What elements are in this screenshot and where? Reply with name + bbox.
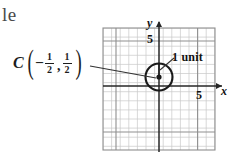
y-axis-label: y (147, 16, 152, 31)
center-point-label: C ( – 1 2 , 1 2 ) (13, 52, 84, 75)
x-denominator: 2 (46, 65, 53, 75)
x-numerator: 1 (46, 52, 53, 62)
label-comma: , (57, 58, 61, 74)
x-axis-tick-label: 5 (196, 88, 202, 103)
y-numerator: 1 (64, 52, 71, 62)
radius-unit-label: 1 unit (172, 50, 203, 65)
center-label-name: C (13, 54, 24, 72)
y-fraction: 1 2 (63, 52, 72, 75)
graph-figure (0, 0, 230, 155)
x-axis-label: x (221, 84, 227, 99)
page-text-fragment: le (2, 4, 17, 26)
x-fraction: 1 2 (45, 52, 54, 75)
x-sign: – (36, 54, 43, 70)
y-axis-tick-label: 5 (147, 32, 153, 47)
y-denominator: 2 (64, 65, 71, 75)
